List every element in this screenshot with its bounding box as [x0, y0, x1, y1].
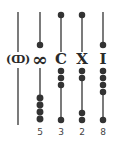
abacus-diagram — [0, 0, 121, 146]
bead — [100, 75, 105, 80]
rod-value-4: 2 — [76, 128, 88, 137]
rod-symbol-5: I — [93, 52, 113, 67]
bead — [37, 102, 43, 108]
bead — [100, 68, 105, 73]
rod-symbol-3: C — [51, 52, 71, 67]
bead — [79, 117, 84, 122]
bead — [58, 68, 63, 73]
bead — [79, 110, 84, 115]
bead — [37, 109, 43, 115]
bead — [37, 95, 43, 101]
rod-symbol-1: (ↀ) — [6, 52, 30, 67]
bead — [58, 117, 63, 122]
bead — [79, 68, 84, 73]
rod-symbol-2: ∞ — [30, 52, 50, 67]
bead — [58, 75, 63, 80]
rod-value-3: 3 — [55, 128, 67, 137]
bead — [100, 82, 105, 87]
rod-symbol-4: X — [72, 52, 92, 67]
bead — [100, 42, 105, 47]
rod-value-2: 5 — [34, 128, 46, 137]
bead — [37, 42, 42, 47]
bead — [100, 117, 105, 122]
bead — [37, 116, 43, 122]
rod-value-5: 8 — [97, 128, 109, 137]
